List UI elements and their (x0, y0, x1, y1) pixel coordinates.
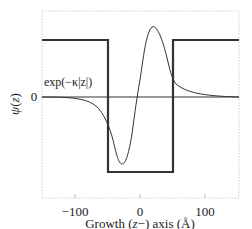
x-tick-marks (75, 194, 205, 198)
y-tick-zero: 0 (31, 89, 38, 104)
wavefunction-curve (42, 27, 239, 164)
x-tick-100: 100 (195, 204, 215, 219)
x-axis-label-suffix: −) axis (Å) (138, 216, 195, 229)
x-axis-label-prefix: Growth ( (85, 216, 132, 229)
chart: ψ(z) 0 exp(−κ|z|) −100 0 100 Growth (z−)… (0, 0, 252, 229)
potential-well (42, 40, 239, 172)
decay-annotation: exp(−κ|z|) (44, 75, 92, 89)
x-axis-label: Growth (z−) axis (Å) (85, 216, 195, 229)
y-axis-label: ψ(z) (7, 93, 22, 115)
